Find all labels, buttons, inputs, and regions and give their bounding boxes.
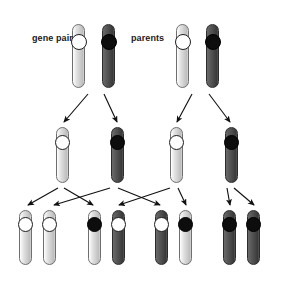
gene-o1-b-open	[42, 217, 57, 232]
gene-o4-a-filled	[222, 217, 237, 232]
label-gene-pair: gene pair	[32, 33, 73, 43]
gene-o2-a-filled	[87, 217, 102, 232]
gene-o3-a-open	[154, 217, 169, 232]
gene-o4-b-filled	[246, 217, 261, 232]
gene-o3-b-filled	[178, 217, 193, 232]
inheritance-diagram: gene pairparents	[0, 0, 286, 285]
gene-o1-a-open	[18, 217, 33, 232]
gene-o2-b-open	[111, 217, 126, 232]
label-parents: parents	[131, 33, 164, 43]
